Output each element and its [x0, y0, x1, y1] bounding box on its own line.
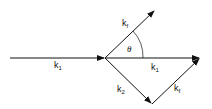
- label-k1-incoming: k1: [54, 60, 63, 71]
- label-kf: kf: [122, 18, 129, 29]
- theta-arc: [133, 31, 143, 58]
- k2-arrow: [105, 58, 151, 103]
- label-kl: kℓ: [174, 83, 181, 94]
- label-k2: k2: [117, 84, 126, 95]
- label-k1-horizontal: k1: [151, 62, 160, 73]
- label-theta: θ: [127, 44, 132, 54]
- kl-arrow: [152, 59, 199, 104]
- vector-diagram: k1 kf k1 k2 kℓ θ: [0, 0, 212, 109]
